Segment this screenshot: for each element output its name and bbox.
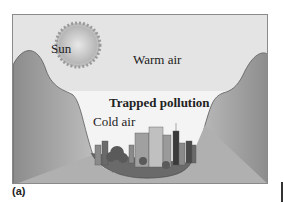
temperature-inversion-diagram: Sun Warm air Trapped pollution Cold air bbox=[12, 14, 268, 184]
panel-label: (a) bbox=[12, 185, 25, 197]
cold-air-label: Cold air bbox=[93, 114, 135, 130]
trapped-pollution-label: Trapped pollution bbox=[109, 95, 210, 111]
warm-air-label: Warm air bbox=[133, 52, 181, 68]
sun-label: Sun bbox=[51, 41, 71, 57]
page-edge-divider bbox=[281, 182, 283, 202]
